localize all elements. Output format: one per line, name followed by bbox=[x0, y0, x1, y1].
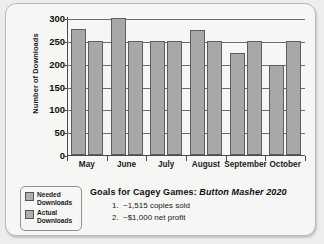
bar-september-actual bbox=[247, 41, 262, 155]
legend-item-actual: Actual Downloads bbox=[25, 209, 78, 224]
y-axis-tick bbox=[63, 65, 67, 66]
x-axis-label-august: August bbox=[192, 160, 220, 169]
goals-title-game: Button Masher 2020 bbox=[199, 187, 286, 197]
bar-august-actual bbox=[207, 41, 222, 155]
x-axis-label-july: July bbox=[158, 160, 174, 169]
bar-june-actual bbox=[128, 41, 143, 155]
bars-layer bbox=[67, 17, 305, 156]
bar-september-needed bbox=[230, 53, 245, 155]
legend-label-actual-line2: Downloads bbox=[37, 217, 72, 224]
goal-item-2: 2.~$1,000 net profit bbox=[112, 213, 310, 222]
goal-item-2-text: ~$1,000 net profit bbox=[123, 213, 186, 222]
bar-august-needed bbox=[190, 30, 205, 155]
chart-card: Number of Downloads 050100150200250300 M… bbox=[5, 3, 316, 236]
legend-label-needed-line2: Downloads bbox=[37, 199, 72, 206]
goals-title: Goals for Cagey Games: Button Masher 202… bbox=[90, 187, 310, 197]
goal-item-2-number: 2. bbox=[112, 213, 123, 222]
x-axis-label-may: May bbox=[79, 160, 95, 169]
y-axis-tick bbox=[63, 88, 67, 89]
goals-title-prefix: Goals for Cagey Games: bbox=[90, 187, 197, 197]
chart-axes bbox=[67, 17, 305, 156]
x-axis-label-october: October bbox=[269, 160, 300, 169]
bar-june-needed bbox=[111, 18, 126, 155]
bar-october-needed bbox=[269, 65, 284, 155]
goal-item-1: 1.~1,515 copies sold bbox=[112, 201, 310, 210]
legend-item-needed: Needed Downloads bbox=[25, 191, 78, 206]
legend-label-needed: Needed Downloads bbox=[37, 191, 72, 206]
bar-may-needed bbox=[71, 29, 86, 155]
bar-july-actual bbox=[167, 41, 182, 155]
bar-october-actual bbox=[286, 41, 301, 155]
legend-swatch-actual bbox=[25, 210, 34, 219]
y-axis-tick bbox=[63, 19, 67, 20]
y-axis-tick bbox=[63, 133, 67, 134]
screenshot-page: Number of Downloads 050100150200250300 M… bbox=[0, 0, 324, 244]
y-axis-tick-labels: 050100150200250300 bbox=[39, 17, 65, 156]
chart-legend: Needed Downloads Actual Downloads bbox=[20, 186, 82, 231]
legend-label-needed-line1: Needed bbox=[37, 191, 61, 198]
legend-label-actual-line1: Actual bbox=[37, 209, 57, 216]
x-axis-label-june: June bbox=[117, 160, 136, 169]
legend-label-actual: Actual Downloads bbox=[37, 209, 72, 224]
bar-may-actual bbox=[88, 41, 103, 155]
y-axis-tick bbox=[63, 42, 67, 43]
goal-item-1-number: 1. bbox=[112, 201, 123, 210]
bar-july-needed bbox=[150, 41, 165, 155]
goal-item-1-text: ~1,515 copies sold bbox=[123, 201, 190, 210]
chart-plot-area: Number of Downloads 050100150200250300 M… bbox=[15, 17, 309, 177]
x-axis-tick-labels: MayJuneJulyAugustSeptemberOctober bbox=[67, 160, 305, 174]
x-axis-label-september: September bbox=[224, 160, 266, 169]
y-axis-tick bbox=[63, 110, 67, 111]
goals-block: Goals for Cagey Games: Button Masher 202… bbox=[90, 187, 310, 222]
legend-swatch-needed bbox=[25, 192, 34, 201]
x-axis-tick bbox=[305, 156, 306, 161]
